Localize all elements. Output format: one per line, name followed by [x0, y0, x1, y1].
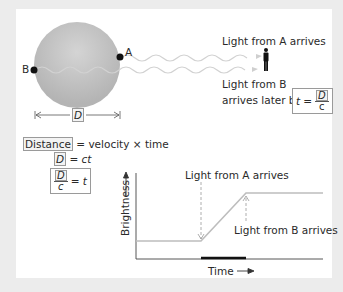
distance-box: Distance [23, 137, 73, 151]
observer-icon [264, 48, 269, 71]
graph-axes [136, 173, 323, 259]
graph-ylabel: Brightness [119, 180, 131, 236]
equation-2-d-box: D [54, 152, 66, 166]
equation-3-num: D [55, 170, 67, 181]
light-a-arrives-label: Light from A arrives [222, 35, 326, 47]
equation-1-rest: = velocity × time [76, 138, 168, 150]
delay-eq-var: t [296, 95, 300, 107]
point-b-label: B [22, 63, 29, 75]
point-b-dot [31, 67, 38, 74]
annotation-light-b: Light from B arrives [234, 224, 338, 236]
delay-eq-num: D [316, 90, 328, 101]
light-wave-a [121, 55, 247, 61]
star-disk [34, 22, 120, 108]
arrow-head-b-icon [252, 67, 258, 72]
light-b-label-line2: arrives later by [222, 94, 302, 106]
time-arrow-icon [237, 269, 254, 274]
equation-3: D c = t [50, 168, 91, 194]
light-b-label-line1: Light from B [222, 78, 287, 90]
equation-3-den: c [58, 182, 64, 192]
diameter-label: D [72, 108, 84, 122]
annotation-light-a: Light from A arrives [185, 169, 289, 181]
point-a-dot [117, 54, 124, 61]
delay-eq-den: c [319, 102, 325, 112]
delay-equation: t = D c [292, 88, 333, 114]
graph-xlabel: Time [208, 265, 234, 277]
equation-2: D = ct [54, 152, 91, 166]
equation-2-rest: = ct [69, 153, 91, 165]
point-a-label: A [125, 46, 132, 58]
equation-3-rest: = t [71, 175, 87, 187]
equation-1: Distance = velocity × time [23, 137, 169, 151]
delay-eq-equals: = [303, 95, 312, 107]
arrow-head-a-icon [256, 54, 262, 59]
